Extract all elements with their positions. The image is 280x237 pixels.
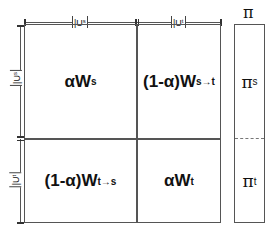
pi-sup: s [253,76,258,87]
dim-label-sup: s [12,72,18,75]
pi-source: πs [235,25,264,138]
dim-label-base: |U [12,75,22,84]
left-dimension-label-source: |Us [10,70,22,86]
cell-base: (1-α)W [143,72,196,92]
left-arrow-tick-middle2 [17,140,24,142]
dim-label-base: |U [11,176,21,185]
cell-base: αW [64,72,91,92]
left-arrow-tick-bottom [17,222,24,224]
cell-bottom-left: (1-α)Wt→s [25,139,136,223]
cell-sup: s [91,76,97,87]
pi-base: π [241,72,252,92]
cell-base: αW [164,171,191,191]
cell-top-right: (1-α)Ws→t [137,25,221,138]
cell-base: (1-α)W [45,171,98,191]
cell-sup: t [191,176,194,187]
cell-bottom-right: αWt [137,139,221,223]
pi-base: π [243,171,254,191]
cell-top-left: αWs [25,25,136,138]
cell-sup: s→t [196,76,215,87]
pi-target: πt [235,139,264,223]
left-arrow-tick-top [17,25,24,27]
dim-label-sup: t [11,175,17,177]
pi-vector-title: π [243,3,254,22]
pi-sup: t [254,176,257,187]
left-arrow-tick-middle [17,136,24,138]
cell-sup: t→s [98,176,117,187]
left-dimension-label-target: |Ut [9,173,21,188]
